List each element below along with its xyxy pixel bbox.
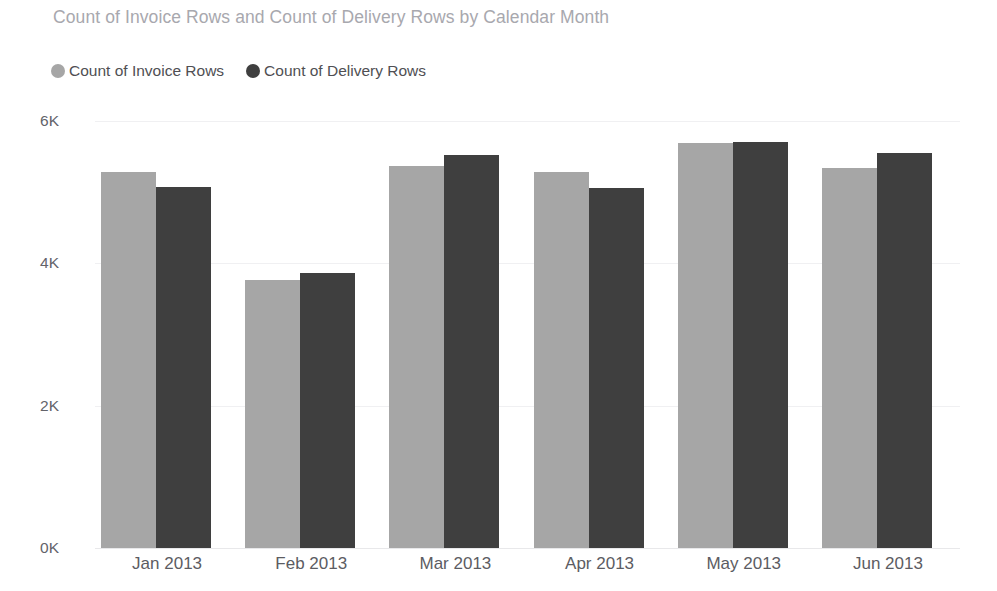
x-axis-tick-label: Jun 2013 [816,552,960,576]
bar-invoice-rows[interactable] [534,172,589,548]
bar-invoice-rows[interactable] [822,168,877,548]
y-axis-tick-label: 6K [40,113,59,129]
bar-group [822,0,932,591]
bar-invoice-rows[interactable] [101,172,156,548]
bar-group [389,0,499,591]
y-axis-tick-label: 0K [40,540,59,556]
bar-group [678,0,788,591]
bar-chart-visual[interactable]: Count of Invoice Rows and Count of Deliv… [0,0,997,591]
bar-delivery-rows[interactable] [877,153,932,548]
x-axis-tick-label: May 2013 [672,552,816,576]
bar-invoice-rows[interactable] [389,166,444,548]
bar-delivery-rows[interactable] [300,273,355,548]
bar-invoice-rows[interactable] [678,143,733,548]
bar-delivery-rows[interactable] [589,188,644,548]
x-axis-tick-label: Jan 2013 [95,552,239,576]
bar-group [534,0,644,591]
y-axis: 0K2K4K6K [0,0,95,591]
x-axis-tick-label: Feb 2013 [239,552,383,576]
bar-group [101,0,211,591]
x-axis: Jan 2013Feb 2013Mar 2013Apr 2013May 2013… [95,552,960,586]
x-axis-tick-label: Mar 2013 [383,552,527,576]
bar-delivery-rows[interactable] [444,155,499,548]
x-axis-tick-label: Apr 2013 [528,552,672,576]
bar-invoice-rows[interactable] [245,280,300,548]
plot-area: 0K2K4K6K Jan 2013Feb 2013Mar 2013Apr 201… [0,0,997,591]
bar-group [245,0,355,591]
y-axis-tick-label: 2K [40,398,59,414]
bar-delivery-rows[interactable] [156,187,211,548]
bar-delivery-rows[interactable] [733,142,788,548]
y-axis-tick-label: 4K [40,255,59,271]
bars-layer [95,0,960,591]
